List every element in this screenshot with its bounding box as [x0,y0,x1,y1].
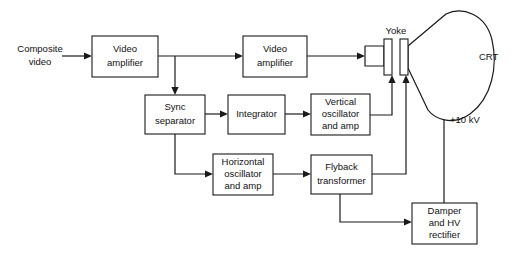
flyback-transformer-label-line1: Flyback [325,161,358,172]
horizontal-oscillator-label-line1: Horizontal [222,156,265,167]
composite-video-label-line1: Composite [17,43,62,54]
hv-supply-label: +10 kV [450,114,481,125]
block-damper-and-hv-rectifier[interactable]: Damper and HV rectifier [412,203,477,244]
yoke-label: Yoke [386,25,407,36]
block-video-amplifier-2[interactable]: Video amplifier [243,36,307,77]
damper-label-line1: Damper [428,205,462,216]
connection-horizontal-oscillator-to-flyback [273,170,311,177]
damper-label-line2: and HV [429,217,461,228]
horizontal-oscillator-label-line3: and amp [225,180,262,191]
video-amplifier-2-label-line2: amplifier [257,57,293,68]
block-sync-separator[interactable]: Sync separator [145,95,205,134]
flyback-transformer-label-line2: transformer [317,175,366,186]
damper-label-line3: rectifier [429,229,460,240]
connection-video-amp-2-to-crt-neck [307,52,365,59]
vertical-oscillator-label-line2: oscillator [322,108,360,119]
video-amplifier-2-label-line1: Video [263,43,287,54]
block-flyback-transformer[interactable]: Flyback transformer [311,155,372,194]
connection-input-to-video-amp-1 [62,52,92,59]
video-amplifier-1-label-line2: amplifier [107,57,143,68]
horizontal-oscillator-label-line2: oscillator [224,168,262,179]
block-video-amplifier-1[interactable]: Video amplifier [92,36,158,77]
vertical-oscillator-label-line1: Vertical [325,96,356,107]
connection-sync-separator-to-integrator [205,110,228,117]
yoke-coil-right [400,39,408,75]
sync-separator-label-line1: Sync [164,101,185,112]
connection-flyback-to-yoke [372,75,410,174]
sync-separator-label-line2: separator [155,115,195,126]
video-amplifier-1-label-line1: Video [113,43,137,54]
block-diagram-svg: Video amplifier Video amplifier Sync sep… [0,0,515,259]
integrator-label: Integrator [236,108,277,119]
connection-sync-separator-to-horizontal-oscillator [175,134,213,178]
block-diagram-canvas: Video amplifier Video amplifier Sync sep… [0,0,515,259]
crt-label: CRT [479,51,499,62]
vertical-oscillator-label-line3: and amp [322,120,359,131]
block-vertical-oscillator-and-amp[interactable]: Vertical oscillator and amp [311,94,370,135]
connection-video-amp-1-to-video-amp-2 [158,52,243,59]
block-horizontal-oscillator-and-amp[interactable]: Horizontal oscillator and amp [213,154,273,195]
connection-flyback-to-damper [340,194,412,226]
connection-integrator-to-vertical-oscillator [285,110,311,117]
composite-video-label-line2: video [29,56,52,67]
yoke-coil-left [384,39,392,75]
block-integrator[interactable]: Integrator [228,95,285,134]
connection-video-amp-1-tap-to-sync-separator [171,56,178,95]
connection-vertical-oscillator-to-yoke [370,75,396,115]
